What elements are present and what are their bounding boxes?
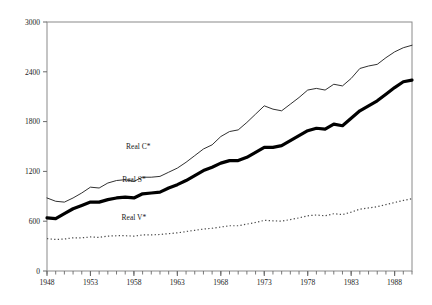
y-tick-label: 0 — [36, 267, 40, 276]
series-line-real-s — [47, 80, 412, 219]
x-tick-label: 1983 — [344, 278, 359, 287]
x-tick-label: 1953 — [83, 278, 98, 287]
y-axis-labels: 06001200180024003000 — [25, 18, 40, 276]
x-axis-minor-ticks — [47, 271, 412, 275]
x-tick-label: 1988 — [387, 278, 402, 287]
x-tick-label: 1968 — [213, 278, 228, 287]
series-line-real-v — [47, 199, 412, 240]
series-label-real-v: Real V* — [122, 213, 147, 222]
y-tick-label: 600 — [29, 217, 41, 226]
series-label-real-s: Real S* — [122, 175, 146, 184]
series-label-real-c: Real C* — [126, 142, 151, 151]
x-tick-label: 1973 — [257, 278, 272, 287]
x-axis-labels: 194819531958196319681973197819831988 — [40, 278, 403, 287]
plot-border — [47, 22, 412, 271]
y-tick-label: 3000 — [25, 18, 40, 27]
y-tick-label: 1200 — [25, 167, 40, 176]
series-lines — [47, 45, 412, 239]
series-line-real-c — [47, 45, 412, 202]
x-tick-label: 1978 — [300, 278, 315, 287]
line-chart: 06001200180024003000 1948195319581963196… — [0, 0, 432, 305]
chart-container: 06001200180024003000 1948195319581963196… — [0, 0, 432, 305]
y-tick-label: 2400 — [25, 68, 40, 77]
x-tick-label: 1963 — [170, 278, 185, 287]
series-annotations: Real C*Real S*Real V* — [122, 142, 151, 222]
plot-frame — [47, 22, 412, 271]
x-tick-label: 1958 — [126, 278, 141, 287]
y-axis-ticks — [43, 22, 47, 271]
y-tick-label: 1800 — [25, 117, 40, 126]
x-tick-label: 1948 — [40, 278, 55, 287]
